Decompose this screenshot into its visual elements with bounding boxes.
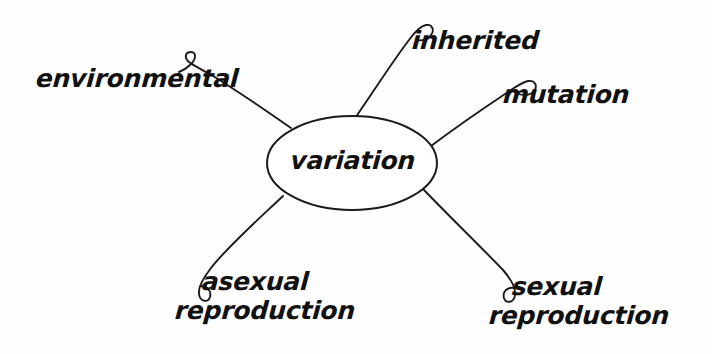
connector-sexual-reproduction: [424, 190, 515, 302]
branch-label-asexual-line2: reproduction: [174, 296, 356, 325]
branch-label-sexual-line1: sexual: [511, 272, 603, 301]
center-node-label: variation: [267, 146, 439, 175]
branch-label-mutation: mutation: [502, 80, 631, 109]
branch-label-inherited: inherited: [411, 26, 540, 55]
diagram-canvas: variation environmental inherited mutati…: [0, 0, 712, 354]
branch-label-sexual-line2: reproduction: [488, 301, 670, 330]
branch-label-environmental: environmental: [35, 64, 240, 93]
branch-label-asexual-line1: asexual: [201, 267, 310, 296]
